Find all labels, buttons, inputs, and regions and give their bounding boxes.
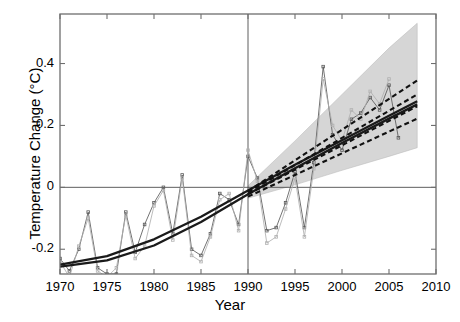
x-tick-label: 1975 [81,279,133,294]
x-tick-label: 1990 [222,279,274,294]
y-tick-label: 0 [8,178,54,193]
y-tick-label: -0.2 [8,240,54,255]
x-tick-label: 1985 [175,279,227,294]
uncertainty-band-group [248,23,417,198]
y-axis-title: Temperature Change (°C) [26,44,43,264]
plot-canvas [0,0,460,322]
y-tick-label: 0.2 [8,116,54,131]
x-tick-label: 2000 [316,279,368,294]
x-axis-title: Year [0,296,460,313]
x-tick-label: 1995 [269,279,321,294]
series-marker [106,276,109,279]
x-tick-label: 1970 [34,279,86,294]
uncertainty-band [248,23,417,198]
x-tick-label: 2005 [363,279,415,294]
chart-figure: Temperature Change (°C) Year 19701975198… [0,0,460,322]
x-tick-label: 1980 [128,279,180,294]
series-marker [68,276,71,279]
x-tick-label: 2010 [410,279,460,294]
y-tick-label: 0.4 [8,55,54,70]
